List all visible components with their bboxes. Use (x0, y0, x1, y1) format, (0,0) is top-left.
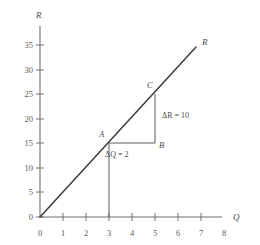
point-b-label: B (159, 140, 164, 150)
revenue-line-label: R (201, 37, 208, 47)
point-c-label: C (147, 80, 153, 90)
y-axis-tick-labels: 0 5 10 15 20 25 30 35 (25, 40, 34, 222)
y-axis-label: R (35, 10, 42, 20)
chart-svg: 0 5 10 15 20 25 30 35 0 1 2 3 4 5 6 (0, 0, 260, 245)
chart-figure: 0 5 10 15 20 25 30 35 0 1 2 3 4 5 6 (0, 0, 260, 245)
y-tick-label-20: 20 (25, 114, 34, 124)
x-tick-label-1: 1 (61, 228, 65, 238)
y-tick-label-10: 10 (25, 163, 34, 173)
x-tick-label-3: 3 (107, 228, 111, 238)
x-tick-label-2: 2 (84, 228, 88, 238)
y-tick-label-30: 30 (25, 65, 34, 75)
x-tick-label-8: 8 (222, 228, 226, 238)
x-tick-label-0: 0 (38, 228, 42, 238)
slope-triangle (109, 94, 155, 143)
revenue-line (40, 47, 196, 217)
y-tick-label-25: 25 (25, 89, 34, 99)
delta-r-annotation: ΔR = 10 (162, 111, 189, 120)
delta-q-annotation: ΔQ = 2 (105, 150, 128, 159)
y-tick-label-15: 15 (25, 138, 34, 148)
x-tick-label-6: 6 (176, 228, 180, 238)
x-tick-label-4: 4 (130, 228, 135, 238)
y-tick-label-0: 0 (29, 212, 33, 222)
y-tick-label-35: 35 (25, 40, 34, 50)
point-a-label: A (98, 129, 105, 139)
x-axis-tick-labels: 0 1 2 3 4 5 6 7 8 (38, 228, 226, 238)
y-tick-label-5: 5 (29, 187, 33, 197)
x-tick-label-7: 7 (199, 228, 203, 238)
x-axis-label: Q (233, 212, 240, 222)
x-tick-label-5: 5 (153, 228, 157, 238)
